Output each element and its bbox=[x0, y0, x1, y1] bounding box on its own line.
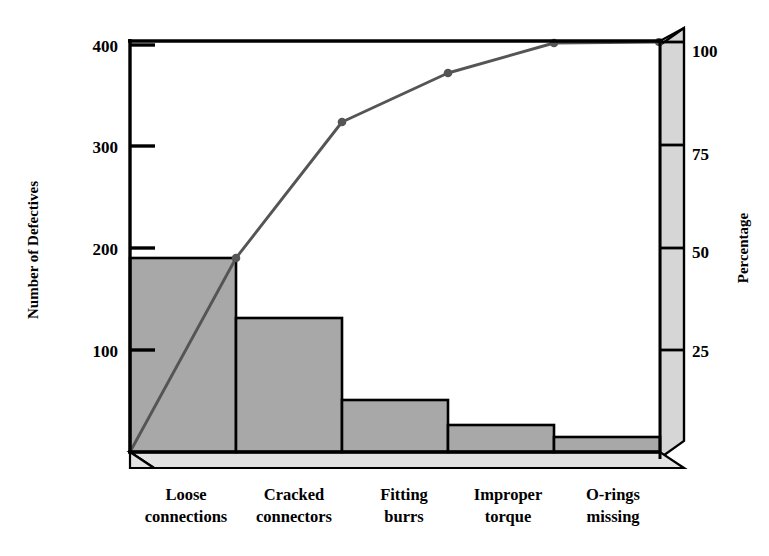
cat-line-1: Improper bbox=[474, 485, 542, 504]
cat-line-2: missing bbox=[586, 507, 640, 526]
left-tick-label-100: 100 bbox=[93, 342, 119, 361]
chart-svg: 400 300 200 100 100 75 50 25 Number of D… bbox=[0, 0, 769, 556]
right-axis-tick-labels: 100 75 50 25 bbox=[692, 42, 718, 361]
cat-line-2: torque bbox=[485, 507, 531, 526]
right-tick-label-75: 75 bbox=[692, 145, 709, 164]
category-label-o-rings-missing: O-rings missing bbox=[586, 485, 641, 526]
cat-line-1: O-rings bbox=[586, 485, 641, 504]
left-axis-tick-labels: 400 300 200 100 bbox=[93, 37, 119, 361]
cat-line-2: burrs bbox=[384, 507, 424, 526]
bar-cracked-connectors bbox=[236, 318, 342, 452]
line-point-loose-connections bbox=[232, 254, 241, 263]
category-label-improper-torque: Improper torque bbox=[474, 485, 542, 526]
cat-line-2: connections bbox=[145, 507, 228, 526]
bar-improper-torque bbox=[448, 425, 554, 452]
right-axis-title: Percentage bbox=[735, 212, 751, 283]
cat-line-1: Cracked bbox=[264, 485, 325, 504]
cat-line-1: Fitting bbox=[380, 485, 428, 504]
line-point-cracked-connectors bbox=[338, 118, 347, 127]
category-label-loose-connections: Loose connections bbox=[145, 485, 228, 526]
category-labels: Loose connections Cracked connectors Fit… bbox=[145, 485, 641, 526]
pareto-chart-figure: 400 300 200 100 100 75 50 25 Number of D… bbox=[0, 0, 769, 556]
cat-line-1: Loose bbox=[165, 485, 206, 504]
right-tick-label-25: 25 bbox=[692, 342, 709, 361]
bar-fitting-burrs bbox=[342, 400, 448, 452]
bar-o-rings-missing bbox=[554, 437, 660, 452]
category-label-cracked-connectors: Cracked connectors bbox=[256, 485, 333, 526]
frame-bottom-face bbox=[130, 452, 684, 468]
left-tick-label-300: 300 bbox=[93, 138, 119, 157]
right-tick-label-100: 100 bbox=[692, 42, 718, 61]
cat-line-2: connectors bbox=[256, 507, 333, 526]
frame-right-face bbox=[660, 28, 684, 458]
left-tick-label-400: 400 bbox=[93, 37, 119, 56]
left-tick-label-200: 200 bbox=[93, 240, 119, 259]
left-axis-title: Number of Defectives bbox=[25, 181, 41, 319]
category-label-fitting-burrs: Fitting burrs bbox=[380, 485, 428, 526]
right-tick-label-50: 50 bbox=[692, 243, 709, 262]
line-point-fitting-burrs bbox=[444, 69, 453, 78]
